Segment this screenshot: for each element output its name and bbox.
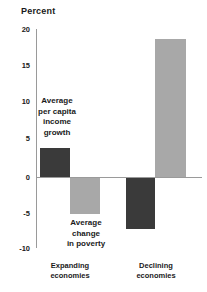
category-label-line-2: economies — [120, 271, 192, 281]
y-tick-label-20: 20 — [8, 25, 30, 34]
annotation-line-3: in poverty — [54, 239, 118, 250]
annotation-line-1: Average — [27, 96, 87, 107]
annotation-line-3: income — [27, 117, 87, 128]
annotation-line-2: change — [54, 229, 118, 240]
annotation-line-2: per capita — [27, 107, 87, 118]
annotation-line-1: Average — [54, 218, 118, 229]
category-label-line-1: Expanding — [34, 261, 106, 271]
percent-bar-chart: Percent 20 15 10 5 0 -5 -10 Average per … — [0, 0, 207, 292]
y-tick-label-0: 0 — [8, 173, 30, 182]
category-label-expanding-economies: Expanding economies — [34, 261, 106, 280]
y-tick-label-neg5: -5 — [8, 209, 30, 218]
poverty-change-annotation: Average change in poverty — [54, 218, 118, 250]
y-axis-line — [36, 29, 37, 248]
y-tick-label-neg10: -10 — [8, 244, 30, 253]
annotation-line-4: growth — [27, 128, 87, 139]
category-label-declining-economies: Declining economies — [120, 261, 192, 280]
bar-declining-income-growth — [126, 178, 155, 229]
bar-expanding-income-growth — [40, 148, 70, 177]
zero-baseline — [36, 177, 202, 178]
category-label-line-1: Declining — [120, 261, 192, 271]
y-tick-label-15: 15 — [8, 61, 30, 70]
plot-area: 20 15 10 5 0 -5 -10 Average per capita i… — [0, 0, 207, 292]
bar-declining-poverty-change — [155, 39, 186, 177]
income-growth-annotation: Average per capita income growth — [27, 96, 87, 138]
category-label-line-2: economies — [34, 271, 106, 281]
bar-expanding-poverty-change — [70, 178, 100, 214]
